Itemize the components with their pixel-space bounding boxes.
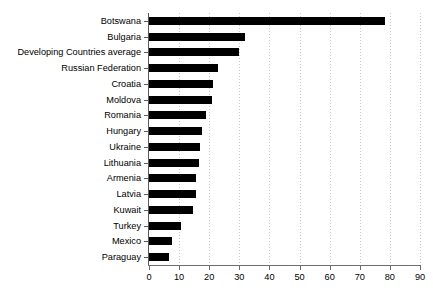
x-axis-tick (209, 266, 210, 270)
x-axis-tick (390, 266, 391, 270)
category-label: Kuwait (113, 204, 141, 216)
y-axis-tick (144, 194, 148, 195)
y-axis-tick (144, 115, 148, 116)
category-label: Romania (104, 109, 141, 121)
y-axis-tick (144, 257, 148, 258)
x-axis-tick (300, 266, 301, 270)
y-axis-tick (144, 100, 148, 101)
x-axis-tick (269, 266, 270, 270)
category-label: Bulgaria (107, 31, 141, 43)
bar (149, 222, 181, 230)
category-axis-labels: BotswanaBulgariaDeveloping Countries ave… (0, 13, 145, 265)
x-axis-tick-label: 20 (194, 272, 224, 282)
bar (149, 206, 193, 214)
gridline-70 (360, 13, 361, 265)
x-axis-tick-label: 0 (134, 272, 164, 282)
category-label: Latvia (116, 188, 141, 200)
y-axis-tick (144, 226, 148, 227)
y-axis-tick (144, 163, 148, 164)
gridline-80 (390, 13, 391, 265)
x-axis-tick-label: 40 (254, 272, 284, 282)
category-label: Botswana (101, 15, 141, 27)
category-label: Paraguay (102, 251, 141, 263)
x-axis-tick (420, 266, 421, 270)
bar (149, 143, 200, 151)
category-label: Russian Federation (61, 62, 141, 74)
y-axis-tick (144, 68, 148, 69)
x-axis-tick (179, 266, 180, 270)
x-axis-tick (239, 266, 240, 270)
x-axis-tick (149, 266, 150, 270)
category-label: Hungary (106, 125, 141, 137)
x-axis-tick (330, 266, 331, 270)
x-axis-tick-label: 60 (315, 272, 345, 282)
y-axis-tick (144, 84, 148, 85)
y-axis-tick (144, 241, 148, 242)
category-label: Moldova (106, 94, 141, 106)
x-axis-tick (360, 266, 361, 270)
bar (149, 111, 206, 119)
y-axis-tick (144, 147, 148, 148)
bar (149, 17, 385, 25)
y-axis-tick (144, 210, 148, 211)
category-label: Mexico (112, 235, 141, 247)
y-axis-tick (144, 131, 148, 132)
gridline-40 (269, 13, 270, 265)
y-axis-tick (144, 52, 148, 53)
bar (149, 237, 172, 245)
x-axis-tick-label: 50 (285, 272, 315, 282)
gridline-30 (239, 13, 240, 265)
category-label: Ukraine (109, 141, 141, 153)
x-axis-tick-label: 70 (345, 272, 375, 282)
gridline-90 (420, 13, 421, 265)
category-label: Developing Countries average (17, 46, 141, 58)
x-axis-tick-label: 90 (405, 272, 433, 282)
y-axis-tick (144, 21, 148, 22)
y-axis-tick (144, 178, 148, 179)
plot-area (149, 13, 420, 265)
bar (149, 127, 202, 135)
category-label: Croatia (111, 78, 141, 90)
bar (149, 253, 169, 261)
gridline-50 (300, 13, 301, 265)
x-axis-tick-label: 80 (375, 272, 405, 282)
bar (149, 64, 218, 72)
y-axis-tick (144, 37, 148, 38)
gridline-60 (330, 13, 331, 265)
bar (149, 80, 213, 88)
category-label: Lithuania (104, 157, 141, 169)
bar (149, 33, 245, 41)
bar (149, 48, 239, 56)
bar (149, 190, 196, 198)
bar-chart: BotswanaBulgariaDeveloping Countries ave… (0, 0, 433, 301)
x-axis-tick-label: 30 (224, 272, 254, 282)
category-label: Armenia (107, 172, 141, 184)
bar (149, 96, 212, 104)
bar (149, 174, 196, 182)
category-label: Turkey (113, 220, 141, 232)
bar (149, 159, 199, 167)
x-axis-tick-label: 10 (164, 272, 194, 282)
x-axis-line (148, 265, 421, 266)
